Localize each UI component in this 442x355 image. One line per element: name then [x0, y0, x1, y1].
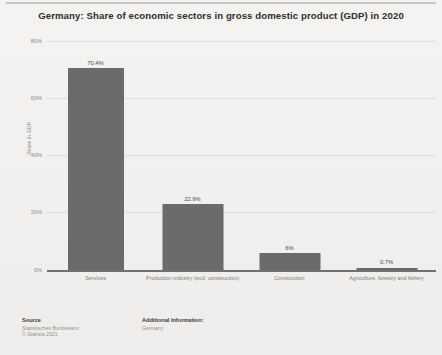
y-tick-label-40: 40%: [31, 152, 42, 158]
footer-info-column: Additional Information: Germany: [142, 317, 302, 337]
y-tick-label-0: 0%: [34, 267, 42, 273]
footer-source-column: Source Statistisches Bundesamt © Statist…: [22, 317, 142, 337]
bar-group-construction[interactable]: 6% Construction: [241, 41, 338, 270]
top-divider: [6, 2, 436, 4]
category-label-services: Services: [48, 275, 144, 282]
y-tick-label-80: 80%: [31, 38, 42, 44]
bar-value-production-industry: 22.9%: [184, 196, 200, 202]
y-tick-label-60: 60%: [31, 95, 42, 101]
bar-value-services: 70.4%: [87, 60, 103, 66]
bar-group-agriculture[interactable]: 0.7% Agriculture, forestry and fishery: [338, 41, 435, 270]
footer-source-line-2: © Statista 2021: [22, 331, 142, 337]
category-label-construction: Construction: [242, 275, 338, 282]
bar-agriculture[interactable]: [356, 268, 417, 270]
footer-info-heading: Additional Information:: [142, 317, 302, 323]
bar-group-production-industry[interactable]: 22.9% Production industry (excl. constru…: [144, 41, 241, 270]
category-label-production-industry: Production industry (excl. construction): [145, 275, 241, 282]
bar-production-industry[interactable]: [162, 204, 223, 270]
chart-footer: Source Statistisches Bundesamt © Statist…: [22, 317, 422, 337]
bar-construction[interactable]: [259, 253, 320, 270]
plot-area: 80% 60% 40% 20% 0% 70.4% Services 22.9% …: [47, 41, 436, 271]
y-tick-label-20: 20%: [31, 209, 42, 215]
chart-page: Germany: Share of economic sectors in gr…: [0, 0, 442, 355]
category-label-agriculture: Agriculture, forestry and fishery: [339, 275, 435, 282]
chart-title: Germany: Share of economic sectors in gr…: [0, 10, 442, 21]
bar-services[interactable]: [68, 68, 124, 270]
bar-value-construction: 6%: [285, 245, 293, 251]
x-axis-line: [47, 270, 436, 272]
footer-info-line-1: Germany: [142, 325, 302, 331]
footer-source-heading: Source: [22, 317, 142, 323]
bar-group-services[interactable]: 70.4% Services: [47, 41, 144, 270]
y-axis-title: Share in GDP: [26, 122, 32, 155]
bar-value-agriculture: 0.7%: [380, 259, 393, 265]
